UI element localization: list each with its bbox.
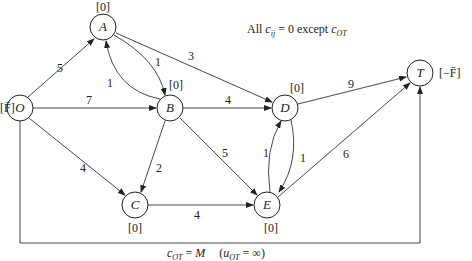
node-T: T xyxy=(407,60,433,86)
supply-O: [F̄] xyxy=(0,101,15,115)
cap-E-T: 6 xyxy=(343,147,349,161)
supply-E: [0] xyxy=(264,221,278,235)
node-B: B xyxy=(157,95,183,121)
edge-B-E xyxy=(180,118,257,195)
edge-E-T xyxy=(278,83,410,197)
supply-B: [0] xyxy=(169,78,183,92)
node-A-label: A xyxy=(98,19,107,34)
cap-A-D: 3 xyxy=(188,49,194,63)
cap-B-A: 1 xyxy=(107,76,113,90)
cap-O-B: 7 xyxy=(86,93,92,107)
cost-note: All cij = 0 except cOT xyxy=(247,22,347,38)
supply-D: [0] xyxy=(290,81,304,95)
node-C: C xyxy=(122,192,148,218)
edge-labels: 5 7 4 1 1 3 4 2 5 4 1 1 9 6 xyxy=(57,49,354,222)
cap-C-E: 4 xyxy=(194,208,200,222)
edges xyxy=(20,33,420,243)
node-E-label: E xyxy=(262,197,271,212)
cap-D-E: 1 xyxy=(300,151,306,165)
ot-arc-note: cOT = M(uOT = ∞) xyxy=(167,246,265,261)
cap-O-A: 5 xyxy=(57,61,63,75)
cap-A-B: 1 xyxy=(155,55,161,69)
node-A: A xyxy=(90,14,116,40)
edge-O-C xyxy=(29,118,125,195)
cap-B-D: 4 xyxy=(225,93,231,107)
cap-E-D: 1 xyxy=(263,146,269,160)
edge-B-A xyxy=(106,41,160,99)
network-diagram: 5 7 4 1 1 3 4 2 5 4 1 1 9 6 O A B C D E xyxy=(0,0,472,261)
supply-T: [−F̄] xyxy=(439,66,460,80)
cap-D-T: 9 xyxy=(348,77,354,91)
edge-B-C xyxy=(141,121,165,192)
node-O-label: O xyxy=(15,100,25,115)
node-E: E xyxy=(254,192,280,218)
cap-B-C: 2 xyxy=(156,161,162,175)
node-D: D xyxy=(272,95,298,121)
supply-labels: [F̄] [0] [0] [0] [0] [0] [−F̄] xyxy=(0,0,460,235)
node-C-label: C xyxy=(131,197,140,212)
edge-D-E xyxy=(279,120,294,192)
cap-B-E: 5 xyxy=(222,146,228,160)
supply-C: [0] xyxy=(128,221,142,235)
supply-A: [0] xyxy=(96,0,110,14)
node-B-label: B xyxy=(166,100,174,115)
node-D-label: D xyxy=(279,100,290,115)
node-T-label: T xyxy=(416,65,424,80)
edge-E-D xyxy=(268,121,281,192)
cap-O-C: 4 xyxy=(80,161,86,175)
